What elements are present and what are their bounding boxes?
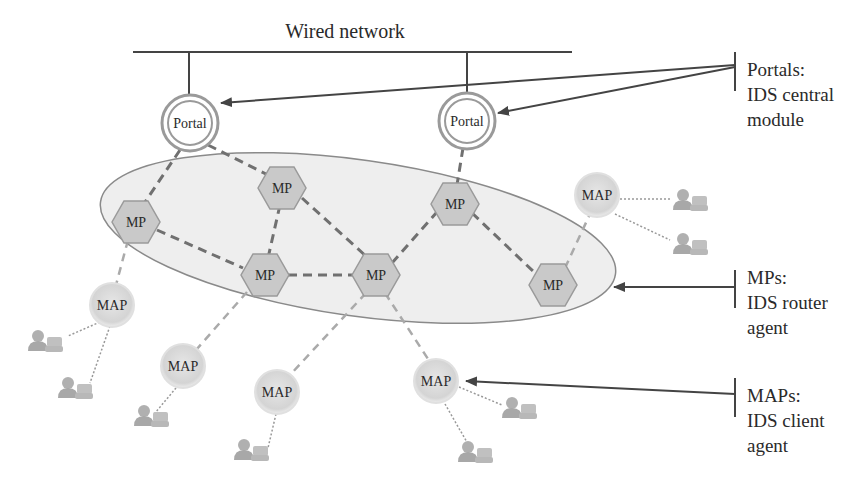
mp-label: MP xyxy=(272,181,292,196)
user-device-icon xyxy=(234,439,269,461)
map-label: MAP xyxy=(262,385,293,400)
user-device-icon xyxy=(673,189,708,211)
portal-label: Portal xyxy=(450,114,484,129)
network-diagram: Portal Portal MP MP MP MP MP MP MAP MAP xyxy=(0,0,866,491)
legend-mps-line2: IDS router xyxy=(747,290,828,315)
mp-label: MP xyxy=(543,278,563,293)
user-device-icon xyxy=(502,397,537,419)
user-device-icon xyxy=(458,441,493,463)
wired-network xyxy=(133,52,572,95)
map-2[interactable]: MAP xyxy=(161,344,205,388)
map-3[interactable]: MAP xyxy=(255,370,299,414)
user-device-icon xyxy=(28,330,63,352)
legend-portals: Portals: IDS central module xyxy=(747,57,834,132)
legend-maps: MAPs: IDS client agent xyxy=(747,383,825,458)
map-label: MAP xyxy=(421,374,452,389)
map-label: MAP xyxy=(582,188,613,203)
mp-label: MP xyxy=(126,215,146,230)
wired-network-title: Wired network xyxy=(285,20,405,42)
legend-mps-line3: agent xyxy=(747,315,828,340)
user-device-icon xyxy=(134,405,169,427)
map-4[interactable]: MAP xyxy=(414,359,458,403)
legend-portals-line2: IDS central xyxy=(747,82,834,107)
map-label: MAP xyxy=(168,359,199,374)
legend-portals-line1: Portals: xyxy=(747,57,834,82)
legend-mps: MPs: IDS router agent xyxy=(747,265,828,340)
legend-mps-line1: MPs: xyxy=(747,265,828,290)
mp-label: MP xyxy=(445,197,465,212)
portal-2[interactable]: Portal xyxy=(439,93,495,149)
legend-maps-line2: IDS client xyxy=(747,408,825,433)
map-1[interactable]: MAP xyxy=(90,283,134,327)
portal-1[interactable]: Portal xyxy=(162,95,218,151)
mp-label: MP xyxy=(255,268,275,283)
portal-label: Portal xyxy=(173,116,207,131)
mp-label: MP xyxy=(366,268,386,283)
arrow-to-map-4 xyxy=(466,381,735,394)
user-device-icon xyxy=(58,377,93,399)
map-5[interactable]: MAP xyxy=(575,173,619,217)
map-label: MAP xyxy=(97,298,128,313)
legend-maps-line3: agent xyxy=(747,433,825,458)
legend-maps-line1: MAPs: xyxy=(747,383,825,408)
mesh-backbone-ellipse xyxy=(90,125,627,352)
user-device-icon xyxy=(673,233,708,255)
legend-portals-line3: module xyxy=(747,107,834,132)
